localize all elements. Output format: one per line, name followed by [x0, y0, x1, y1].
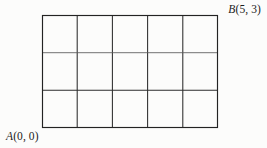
vertex-label-b: B(5, 3) [228, 4, 261, 16]
grid-container [42, 15, 218, 128]
grid-svg [42, 15, 218, 128]
grid-outline-rectangle [43, 16, 218, 128]
vertex-label-a-coords: (0, 0) [13, 130, 39, 142]
vertex-label-b-coords: (5, 3) [235, 3, 261, 15]
coordinate-grid-figure: B(5, 3) A(0, 0) [0, 0, 267, 148]
vertex-label-a: A(0, 0) [6, 131, 39, 143]
